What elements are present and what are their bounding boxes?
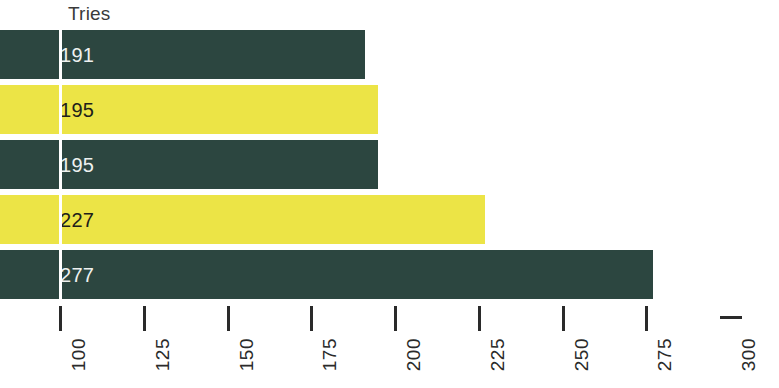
axis-tick-label: 300: [739, 338, 758, 371]
axis-tick: [645, 306, 648, 331]
x-axis: 100125150175200225250275300: [0, 306, 779, 388]
bar-value-label: 227: [60, 210, 94, 230]
axis-tick-label: 100: [69, 338, 88, 371]
plot-area: 191 195 195 227 277: [0, 30, 779, 306]
axis-tick-label: 275: [655, 338, 674, 371]
axis-tick-label: 225: [488, 338, 507, 371]
axis-tick: [478, 306, 481, 331]
bar-chart: Tries 191 195 195 227 277 10012515017520…: [0, 0, 779, 388]
axis-tick: [310, 306, 313, 331]
bar-row: 227: [0, 195, 485, 244]
axis-tick: [143, 306, 146, 331]
axis-tick: [720, 316, 742, 319]
axis-tick-label: 175: [320, 338, 339, 371]
chart-title: Tries: [68, 2, 111, 26]
axis-tick-label: 125: [153, 338, 172, 371]
axis-tick-label: 150: [237, 338, 256, 371]
axis-tick: [562, 306, 565, 331]
axis-tick-label: 200: [404, 338, 423, 371]
bar-row: 277: [0, 250, 653, 299]
bar-row: 195: [0, 85, 378, 134]
axis-tick: [227, 306, 230, 331]
axis-baseline: [59, 30, 62, 307]
bar-value-label: 191: [60, 45, 94, 65]
bar-row: 195: [0, 140, 378, 189]
bar-value-label: 277: [60, 265, 94, 285]
bar-row: 191: [0, 30, 365, 79]
bar-value-label: 195: [60, 155, 94, 175]
bar-value-label: 195: [60, 100, 94, 120]
axis-tick: [394, 306, 397, 331]
axis-tick-label: 250: [572, 338, 591, 371]
axis-tick: [59, 306, 62, 331]
